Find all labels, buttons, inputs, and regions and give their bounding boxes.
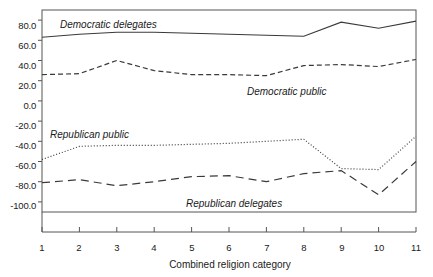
series-label-democratic-delegates: Democratic delegates: [60, 19, 157, 30]
x-tick-label: 2: [69, 242, 89, 253]
series-line-republican-delegates: [42, 162, 416, 195]
x-tick-label: 6: [219, 242, 239, 253]
y-tick-label: 60.0: [0, 40, 36, 51]
y-tick-label: 40.0: [0, 60, 36, 71]
x-tick-label: 8: [294, 242, 314, 253]
y-tick-label: -20.0: [0, 120, 36, 131]
y-tick-label: -60.0: [0, 160, 36, 171]
series-label-democratic-public: Democratic public: [247, 86, 326, 97]
y-tick-label: -80.0: [0, 180, 36, 191]
x-tick-label: 1: [32, 242, 52, 253]
line-chart: 80.0 60.0 40.0 20.0 0.0 -20.0 -40.0 -60.…: [0, 0, 433, 277]
y-tick-label: -40.0: [0, 140, 36, 151]
x-tick-label: 9: [332, 242, 352, 253]
x-axis-title: Combined religion category: [140, 259, 320, 270]
y-tick-label: 20.0: [0, 80, 36, 91]
series-label-republican-public: Republican public: [50, 129, 129, 140]
x-tick-label: 10: [369, 242, 389, 253]
y-tick-label: 80.0: [0, 20, 36, 31]
x-tick-label: 5: [182, 242, 202, 253]
x-tick-label: 4: [144, 242, 164, 253]
series-label-republican-delegates: Republican delegates: [186, 198, 282, 209]
y-tick-label: 0.0: [0, 100, 36, 111]
y-tick-label: -100.0: [0, 200, 36, 211]
series-line-democratic-public: [42, 59, 416, 75]
plot-frame: [42, 10, 416, 212]
x-tick-label: 3: [107, 242, 127, 253]
x-tick-label: 11: [406, 242, 426, 253]
x-tick-label: 7: [257, 242, 277, 253]
series-line-republican-public: [42, 136, 416, 169]
